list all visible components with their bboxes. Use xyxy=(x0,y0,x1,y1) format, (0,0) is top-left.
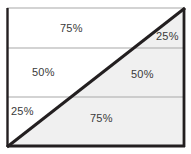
percent-label-top-below: 25% xyxy=(156,31,179,42)
percent-label-middle-above: 50% xyxy=(32,67,55,78)
percent-label-top-above: 75% xyxy=(60,23,83,34)
percent-label-middle-below: 50% xyxy=(131,69,154,80)
diagram-canvas xyxy=(0,0,191,154)
percent-label-bottom-below: 75% xyxy=(90,113,113,124)
triangle-proportion-diagram: 75% 25% 50% 50% 25% 75% xyxy=(0,0,191,154)
percent-label-bottom-above: 25% xyxy=(11,106,34,117)
